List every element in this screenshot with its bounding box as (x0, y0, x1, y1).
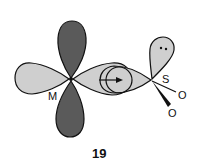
metal-center-dot (69, 77, 73, 81)
metal-label: M (48, 90, 57, 102)
orbital-diagram: M S O O 19 (0, 0, 198, 167)
lone-pair-dot-2 (165, 48, 167, 50)
oxygen-label-2: O (168, 107, 177, 119)
sulfur-label: S (162, 73, 169, 85)
oxygen-label-1: O (178, 89, 187, 101)
d-orbital-lobe-bottom (56, 81, 84, 137)
d-orbital-lobe-left (15, 63, 69, 94)
lone-pair-dot-1 (160, 47, 162, 49)
d-orbital-lobe-top (58, 21, 86, 78)
figure-number: 19 (92, 146, 106, 161)
